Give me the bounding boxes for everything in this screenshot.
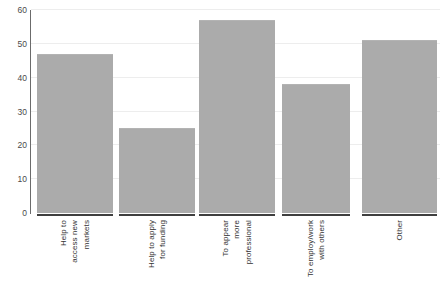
- x-axis-tick-segment: [282, 214, 350, 216]
- x-axis-category-label: To appearmoreprofessional: [199, 220, 275, 292]
- y-axis-tick-label: 10: [3, 175, 27, 184]
- x-axis-category-label-line: To appear: [221, 220, 230, 256]
- x-axis-category-label-line: access new: [70, 220, 79, 263]
- x-axis-category-label: To employ/workwith others: [282, 220, 350, 292]
- x-axis-category-label-line: more: [232, 220, 241, 239]
- y-axis-tick-label: 50: [3, 40, 27, 49]
- x-axis-category-label: Other: [362, 220, 437, 292]
- x-axis-category-label-line: markets: [82, 220, 91, 249]
- x-axis-category-label-line: Help to apply: [147, 220, 156, 268]
- bar-top-edge: [199, 20, 275, 21]
- x-axis-tick-segment: [199, 214, 275, 216]
- x-axis-category-label-line: for funding: [158, 220, 167, 259]
- x-axis-tick-segment: [362, 214, 437, 216]
- x-axis-category-label: Help toaccess newmarkets: [37, 220, 113, 292]
- y-axis-tick-label: 30: [3, 107, 27, 116]
- bar-top-edge: [362, 40, 437, 41]
- bar[interactable]: [362, 40, 437, 213]
- bar[interactable]: [37, 54, 113, 213]
- x-axis-category-label: Help to applyfor funding: [119, 220, 195, 292]
- x-axis-category-label-line: Other: [395, 220, 404, 241]
- x-axis-category-label-line: Help to: [59, 220, 68, 246]
- bar-top-edge: [37, 54, 113, 55]
- y-axis-tick-label: 0: [3, 209, 27, 218]
- y-axis-tick-label: 20: [3, 141, 27, 150]
- bar-chart: 0102030405060 Help toaccess newmarketsHe…: [0, 0, 444, 295]
- y-axis-tick-label: 40: [3, 73, 27, 82]
- y-axis-tick-label: 60: [3, 6, 27, 15]
- gridline: [31, 9, 440, 10]
- x-axis-category-label-line: professional: [244, 220, 253, 264]
- y-axis-tick-labels: 0102030405060: [0, 0, 27, 295]
- x-axis-category-label-line: To employ/work: [306, 220, 315, 277]
- bar-top-edge: [119, 128, 195, 129]
- x-axis-tick-segment: [119, 214, 195, 216]
- bar-top-edge: [282, 84, 350, 85]
- x-axis-category-label-line: with others: [317, 220, 326, 260]
- bar[interactable]: [199, 20, 275, 213]
- plot-area: [31, 10, 440, 213]
- x-axis-tick-segment: [37, 214, 113, 216]
- bar[interactable]: [119, 128, 195, 213]
- bar[interactable]: [282, 84, 350, 213]
